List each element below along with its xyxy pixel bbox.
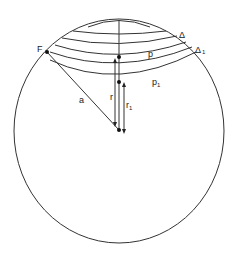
diagram-svg: F Δ Δ1 p p1 a r r1 [0,0,232,258]
arc-group [50,21,196,75]
label-p1: p1 [152,77,161,88]
label-r: r [110,92,113,102]
label-r1: r1 [126,100,133,111]
diagram-canvas: F Δ Δ1 p p1 a r r1 [0,0,232,258]
point-p [117,55,121,59]
point-F [45,50,49,54]
label-a: a [79,95,84,105]
label-p: p [148,49,153,59]
label-delta: Δ [179,30,185,40]
point-center [117,128,121,132]
label-F: F [37,44,43,54]
radius-r-arrow [113,58,117,127]
label-delta1: Δ1 [195,45,206,55]
segment-a [47,52,119,130]
point-p1 [117,80,121,84]
